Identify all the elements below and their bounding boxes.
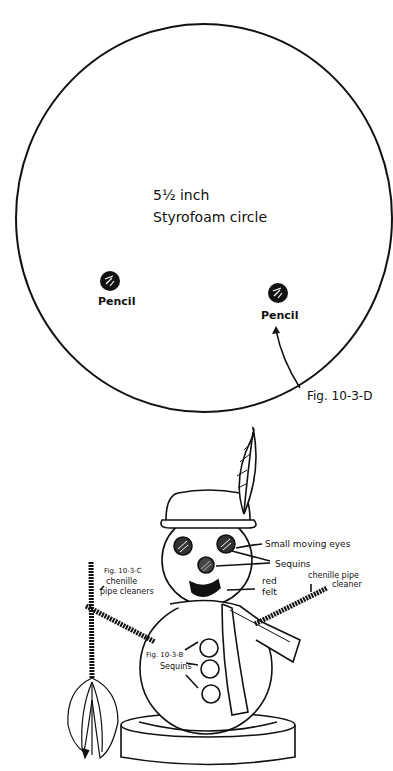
body-sequin-1 [200, 639, 218, 657]
pipe-cleaner-right-label-2: cleaner [332, 580, 362, 589]
eye-left [174, 537, 192, 555]
fig-10-3-d-label: Fig. 10-3-D [307, 389, 372, 403]
fig-b-sequins-label: Sequins [160, 662, 192, 671]
pencil-hole-right: Pencil [261, 283, 298, 322]
pencil-right-label: Pencil [261, 309, 298, 322]
pencil-hole-left: Pencil [98, 271, 135, 308]
snowman-figure [68, 428, 327, 765]
arrow-to-pencil [276, 330, 300, 388]
pipe-cleaner-broom-handle [91, 562, 92, 680]
feather [237, 428, 256, 514]
pencil-left-label: Pencil [98, 295, 135, 308]
fig-c-chenille-label: chenille [106, 577, 137, 586]
fig-c-pipe-cleaners-label: pipe cleaners [100, 587, 154, 596]
circle-label-material: Styrofoam circle [153, 209, 267, 225]
nose-sequin [198, 557, 214, 573]
body-sequin-3 [202, 685, 220, 703]
fig-10-3-c-label: Fig. 10-3-C [104, 567, 142, 575]
body-sequin-2 [201, 660, 219, 678]
circle-label-size: 5½ inch [153, 187, 209, 203]
pipe-cleaner-right-label: chenille pipe [308, 571, 359, 580]
feather-broom [68, 678, 118, 758]
figure-10-3-d: 5½ inch Styrofoam circle Pencil Pencil F… [16, 24, 392, 412]
fig-10-3-b-label: Fig. 10-3-B [146, 651, 184, 659]
felt-label-red: red [262, 576, 277, 586]
eyes-label: Small moving eyes [265, 539, 351, 549]
craft-diagram: 5½ inch Styrofoam circle Pencil Pencil F… [0, 0, 393, 771]
felt-label-felt: felt [262, 587, 277, 597]
pipe-cleaner-arm-left [86, 606, 155, 642]
sequins-label: Sequins [275, 559, 311, 569]
